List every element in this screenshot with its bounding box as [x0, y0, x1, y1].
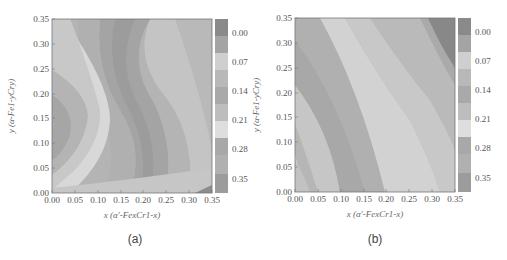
svg-text:0.14: 0.14: [475, 85, 491, 95]
y-axis-label-a: y (α-Fe1-yCry): [6, 79, 16, 134]
svg-text:0.00: 0.00: [33, 188, 49, 198]
svg-text:0.15: 0.15: [33, 113, 49, 123]
svg-text:0.35: 0.35: [276, 13, 292, 23]
panel-label-a: (a): [128, 232, 143, 246]
colorbar-a: [215, 19, 228, 193]
svg-text:0.05: 0.05: [67, 195, 83, 205]
figure: 0.00 0.05 0.10 0.15 0.20 0.25 0.30 0.35 …: [0, 0, 507, 260]
svg-text:0.30: 0.30: [424, 194, 440, 204]
svg-text:0.14: 0.14: [232, 86, 248, 96]
svg-text:0.28: 0.28: [475, 143, 491, 153]
svg-text:0.20: 0.20: [378, 194, 394, 204]
svg-text:0.15: 0.15: [276, 112, 292, 122]
svg-text:0.05: 0.05: [276, 162, 292, 172]
svg-text:0.00: 0.00: [232, 28, 248, 38]
panel-label-b: (b): [368, 232, 383, 246]
svg-text:0.00: 0.00: [276, 187, 292, 197]
x-axis-label-b: x (α′-FexCr1-x): [346, 209, 403, 219]
x-axis-ticks-a: 0.00 0.05 0.10 0.15 0.20 0.25 0.30 0.35: [44, 195, 220, 205]
svg-text:0.25: 0.25: [33, 64, 49, 74]
svg-text:0.25: 0.25: [158, 195, 174, 205]
svg-text:0.20: 0.20: [33, 89, 49, 99]
y-axis-ticks-b: 0.00 0.05 0.10 0.15 0.20 0.25 0.30 0.35: [276, 13, 292, 197]
svg-text:0.30: 0.30: [276, 38, 292, 48]
svg-text:0.15: 0.15: [356, 194, 372, 204]
svg-text:0.35: 0.35: [204, 195, 220, 205]
svg-text:0.30: 0.30: [181, 195, 197, 205]
svg-text:0.10: 0.10: [333, 194, 349, 204]
colorbar-ticks-b: 0.00 0.07 0.14 0.21 0.28 0.35: [475, 27, 491, 183]
svg-text:0.25: 0.25: [401, 194, 417, 204]
svg-text:0.20: 0.20: [135, 195, 151, 205]
svg-text:0.35: 0.35: [33, 14, 49, 24]
svg-text:0.28: 0.28: [232, 144, 248, 154]
colorbar-ticks-a: 0.00 0.07 0.14 0.21 0.28 0.35: [232, 28, 248, 184]
svg-text:0.10: 0.10: [33, 138, 49, 148]
svg-text:0.20: 0.20: [276, 88, 292, 98]
svg-text:0.10: 0.10: [90, 195, 106, 205]
contour-plot-a: [52, 19, 212, 193]
svg-text:0.35: 0.35: [232, 174, 248, 184]
svg-text:0.30: 0.30: [33, 39, 49, 49]
contour-plot-b: [295, 18, 455, 192]
x-axis-ticks-b: 0.00 0.05 0.10 0.15 0.20 0.25 0.30 0.35: [287, 194, 463, 204]
svg-text:0.21: 0.21: [475, 114, 491, 124]
y-axis-label-b: y (α-Fe1-yCry): [251, 78, 261, 133]
svg-text:0.07: 0.07: [232, 57, 248, 67]
y-axis-ticks-a: 0.00 0.05 0.10 0.15 0.20 0.25 0.30 0.35: [33, 14, 49, 198]
svg-text:0.07: 0.07: [475, 56, 491, 66]
svg-text:0.35: 0.35: [447, 194, 463, 204]
svg-text:0.05: 0.05: [310, 194, 326, 204]
colorbar-b: [458, 18, 471, 192]
svg-text:0.35: 0.35: [475, 173, 491, 183]
x-axis-label-a: x (α′-FexCr1-x): [103, 210, 160, 220]
svg-text:0.10: 0.10: [276, 137, 292, 147]
svg-text:0.00: 0.00: [475, 27, 491, 37]
svg-text:0.15: 0.15: [113, 195, 129, 205]
svg-text:0.05: 0.05: [33, 163, 49, 173]
svg-text:0.21: 0.21: [232, 115, 248, 125]
svg-text:0.25: 0.25: [276, 63, 292, 73]
